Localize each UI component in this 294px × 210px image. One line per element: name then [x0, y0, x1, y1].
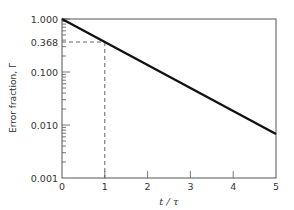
x-tick-label: 3 [187, 181, 193, 192]
y-tick-label: 0.010 [31, 120, 58, 131]
plot-frame [62, 19, 276, 178]
x-axis-title: t / τ [159, 196, 179, 207]
x-tick-label: 5 [273, 181, 279, 192]
dashed-guide-lines [62, 42, 105, 178]
y-tick-label: 0.100 [31, 67, 58, 78]
x-ticks [105, 171, 233, 178]
y-tick-label: 0.368 [31, 37, 58, 48]
y-axis-title: Error fraction, Γ [8, 63, 18, 133]
y-ticks [62, 19, 70, 162]
chart-canvas: 1.000 0.368 0.100 0.010 0.001 0 1 2 3 4 … [0, 0, 294, 210]
x-tick-label: 0 [59, 181, 65, 192]
series-line-error-fraction [62, 19, 276, 134]
y-tick-label: 0.001 [31, 173, 58, 184]
x-tick-label: 4 [230, 181, 236, 192]
x-tick-label: 1 [102, 181, 108, 192]
x-tick-label: 2 [145, 181, 151, 192]
y-tick-label: 1.000 [31, 14, 58, 25]
